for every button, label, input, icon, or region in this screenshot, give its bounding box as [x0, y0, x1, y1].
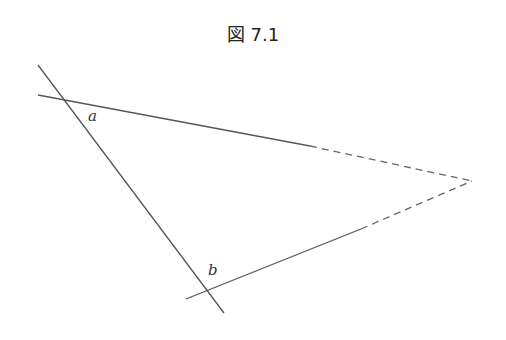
- triangle-diagram: a b: [0, 0, 506, 340]
- lower-line-dashed: [361, 181, 472, 229]
- angle-label-a: a: [88, 107, 97, 125]
- upper-line-solid: [38, 95, 310, 146]
- upper-line-dashed: [310, 146, 472, 181]
- angle-label-b: b: [208, 261, 218, 279]
- transversal-line: [38, 65, 224, 313]
